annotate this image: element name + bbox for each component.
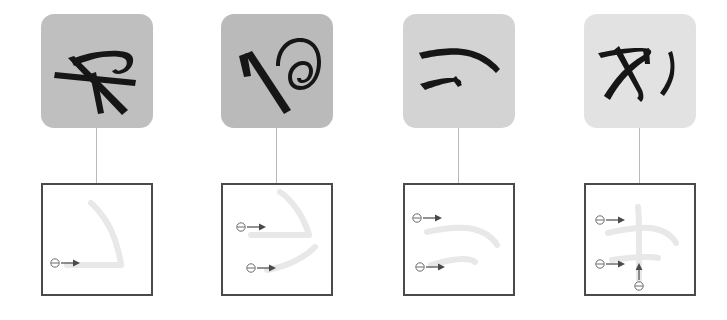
panel-4	[543, 0, 725, 320]
stroke-box-2	[221, 183, 333, 296]
connector-line-3	[458, 128, 459, 183]
sample-ink-2	[221, 14, 333, 128]
ghost-stroke-2-2	[267, 247, 315, 270]
connector-line-1	[96, 128, 97, 183]
panel-3	[362, 0, 544, 320]
ghost-stroke-3-1	[427, 228, 497, 245]
ghost-stroke-3-2	[431, 259, 475, 265]
sample-card-1	[41, 14, 153, 128]
start-marker-4-3	[635, 282, 643, 290]
stroke-diagram-1	[43, 185, 151, 294]
direction-arrow-2-1	[247, 224, 266, 231]
start-marker-3-1	[413, 214, 421, 222]
start-marker-1-1	[51, 259, 59, 267]
stroke-box-4	[584, 183, 696, 296]
panel-2	[180, 0, 362, 320]
start-marker-2-2	[247, 264, 255, 272]
stroke-diagram-2	[223, 185, 331, 294]
connector-line-4	[639, 128, 640, 183]
connector-line-2	[276, 128, 277, 183]
sample-card-3	[403, 14, 515, 128]
start-marker-4-1	[596, 216, 604, 224]
stroke-box-1	[41, 183, 153, 296]
direction-arrow-4-1	[606, 217, 625, 224]
start-marker-4-2	[596, 260, 604, 268]
figure-root	[0, 0, 727, 320]
start-marker-3-2	[416, 263, 424, 271]
panel-1	[0, 0, 182, 320]
start-marker-2-1	[237, 223, 245, 231]
sample-card-4	[584, 14, 696, 128]
ghost-stroke-1-1	[67, 203, 121, 265]
sample-ink-4	[584, 14, 696, 128]
ghost-stroke-4-2	[612, 257, 658, 260]
sample-ink-1	[41, 14, 153, 128]
sample-ink-3	[403, 14, 515, 128]
stroke-diagram-3	[405, 185, 513, 294]
direction-arrow-3-1	[423, 215, 442, 222]
stroke-box-3	[403, 183, 515, 296]
stroke-diagram-4	[586, 185, 694, 294]
sample-card-2	[221, 14, 333, 128]
